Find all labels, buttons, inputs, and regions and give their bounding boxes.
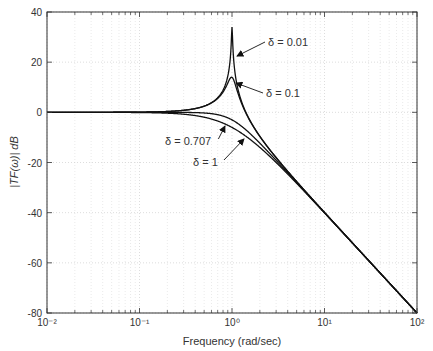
y-tick-label: 20 [31, 57, 43, 68]
annotation-arrow [224, 139, 244, 160]
y-tick-label: -60 [28, 258, 43, 269]
annotations: δ = 0.01δ = 0.1δ = 0.707δ = 1 [165, 36, 308, 168]
annotation-arrow [218, 126, 225, 139]
annotation-arrow [236, 83, 263, 93]
x-tick-label: 10⁰ [224, 317, 239, 328]
annotation-label: δ = 0.707 [165, 135, 211, 147]
y-tick-label: 0 [36, 107, 42, 118]
x-axis-label: Frequency (rad/sec) [183, 335, 281, 347]
annotation-label: δ = 0.1 [266, 87, 300, 99]
annotation-label: δ = 0.01 [268, 36, 308, 48]
y-axis-label: |TF(ω)| dB [8, 136, 20, 188]
x-tick-label: 10² [410, 317, 425, 328]
x-tick-label: 10¹ [317, 317, 332, 328]
y-tick-label: -20 [28, 158, 43, 169]
x-tick-label: 10⁻¹ [130, 317, 150, 328]
y-tick-label: -40 [28, 208, 43, 219]
annotation-label: δ = 1 [193, 156, 218, 168]
axis-ticks: 10⁻²10⁻¹10⁰10¹10²40200-20-40-60-80 [28, 7, 425, 328]
annotation-arrow [237, 42, 265, 56]
y-tick-label: -80 [28, 308, 43, 319]
grid [47, 12, 417, 313]
y-tick-label: 40 [31, 7, 43, 18]
bode-magnitude-chart: 10⁻²10⁻¹10⁰10¹10²40200-20-40-60-80 δ = 0… [0, 0, 433, 351]
